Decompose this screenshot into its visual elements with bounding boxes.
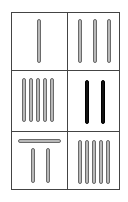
column-divider — [67, 12, 68, 190]
stick-icon — [85, 80, 89, 124]
stick-icon — [78, 19, 82, 63]
row-divider-2 — [11, 131, 120, 132]
stick-icon — [36, 78, 40, 122]
stick-icon — [50, 78, 54, 122]
stick-icon — [46, 148, 50, 183]
stick-icon — [92, 140, 96, 184]
stick-icon — [18, 139, 61, 143]
row-divider-1 — [11, 70, 120, 71]
stick-icon — [37, 19, 41, 63]
stick-icon — [22, 78, 26, 122]
stick-icon — [31, 148, 35, 183]
stick-icon — [29, 78, 33, 122]
stick-icon — [107, 19, 111, 63]
stick-icon — [43, 78, 47, 122]
stick-icon — [106, 140, 110, 184]
stick-icon — [93, 19, 97, 63]
stick-icon — [101, 80, 105, 124]
stick-icon — [85, 140, 89, 184]
stick-icon — [78, 140, 82, 184]
stick-icon — [99, 140, 103, 184]
